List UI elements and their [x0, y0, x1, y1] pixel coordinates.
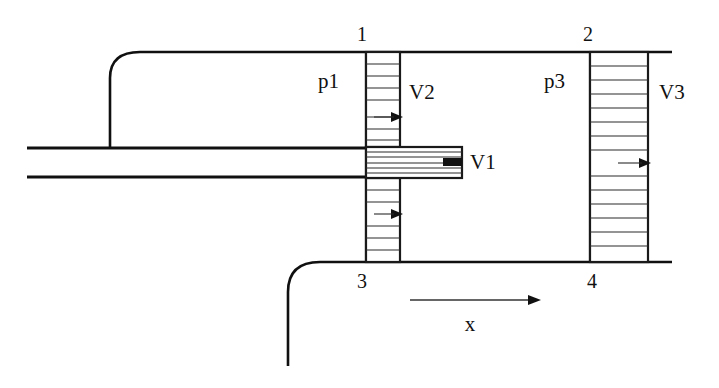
- x-axis-group: [410, 295, 541, 305]
- secondary-lower-profile-group: [366, 178, 403, 262]
- lower-wall-path: [288, 262, 672, 366]
- x-axis-arrowhead: [528, 295, 541, 305]
- exit-profile-box: [590, 52, 648, 262]
- secondary-upper-profile-group: [366, 52, 403, 147]
- station-label-2: 2: [583, 23, 593, 45]
- x-axis-label: x: [465, 312, 476, 336]
- velocity-label-v1: V1: [470, 150, 496, 174]
- station-label-3: 3: [357, 270, 367, 292]
- duct-walls: [27, 52, 672, 366]
- exit-profile-group: [590, 52, 651, 262]
- pressure-label-p1: p1: [318, 69, 339, 93]
- pressure-label-p3: p3: [544, 69, 565, 93]
- velocity-label-v2: V2: [409, 80, 435, 104]
- station-label-4: 4: [587, 270, 597, 292]
- primary-profile-group: [366, 147, 462, 178]
- ejector-schematic-svg: 1 2 3 4 p1 p3 V1 V2 V3 x: [0, 0, 719, 388]
- velocity-label-v3: V3: [659, 80, 685, 104]
- station-label-1: 1: [357, 23, 367, 45]
- diagram-canvas: 1 2 3 4 p1 p3 V1 V2 V3 x: [0, 0, 719, 388]
- secondary-lower-profile-box: [366, 178, 400, 262]
- primary-flow-arrow: [443, 158, 462, 166]
